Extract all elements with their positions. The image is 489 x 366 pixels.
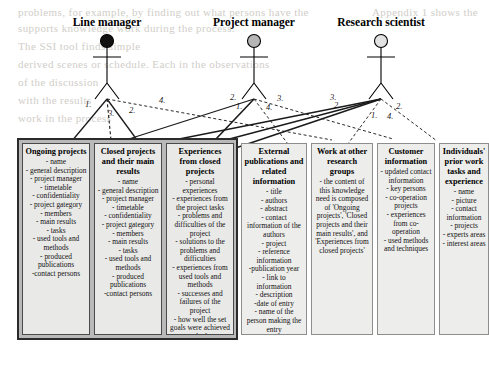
knowledge-box-item: -contact persons — [97, 290, 159, 299]
knowledge-box-item-list: - name- picture- contact information- pr… — [442, 188, 486, 248]
actor-head — [248, 35, 261, 48]
actor-label-research-scientist: Research scientist — [321, 16, 441, 28]
knowledge-box-item: - contact information — [442, 205, 486, 222]
knowledge-box-item: - experiences from the project tasks — [169, 195, 231, 212]
knowledge-box-item: - solutions to the problems and difficul… — [169, 238, 231, 264]
knowledge-box-item-list: - personal experiences- experiences from… — [169, 178, 231, 335]
knowledge-box-item-list: - updated contact information- key perso… — [380, 168, 432, 254]
knowledge-box-customer-information: Customer information- updated contact in… — [377, 143, 435, 335]
knowledge-box-title: Customer information — [380, 147, 432, 167]
connector-number: 4. — [387, 111, 393, 121]
knowledge-box-item: - updated contact information — [380, 168, 432, 185]
actor-research-scientist — [367, 35, 395, 100]
knowledge-box-title: Work at other research groups — [314, 147, 370, 177]
knowledge-box-external-publications: External publications and related inform… — [241, 143, 307, 335]
knowledge-box-item: -contact persons — [25, 270, 87, 279]
actor-project-manager — [240, 35, 268, 100]
knowledge-box-item: - produced publications — [25, 253, 87, 270]
knowledge-box-title: External publications and related inform… — [244, 147, 304, 187]
knowledge-box-title: Ongoing projects — [25, 147, 87, 157]
actor-head — [375, 35, 388, 48]
knowledge-box-item: - personal experiences — [169, 178, 231, 195]
actor-body — [93, 48, 121, 100]
actor-body — [367, 48, 395, 100]
knowledge-box-paragraph: - the content of this knowledge need is … — [314, 178, 370, 255]
knowledge-box-item: - used tools and methods — [97, 255, 159, 272]
knowledge-box-item-list: - name- general description- project man… — [97, 178, 159, 298]
knowledge-box-item: - used methods and techniques — [380, 237, 432, 254]
connector-number: 1. — [236, 101, 242, 111]
knowledge-box-title: Individuals' prior work tasks and experi… — [442, 147, 486, 187]
knowledge-box-item: - problems and difficulties of the proje… — [169, 212, 231, 238]
knowledge-box-item: - co-operation projects — [380, 194, 432, 211]
knowledge-box-item-list: - name- general description- project man… — [25, 158, 87, 278]
connector-number: 2. — [334, 100, 340, 110]
knowledge-box-item: - interest areas — [442, 240, 486, 249]
knowledge-box-closed-projects: Closed projects and their main results- … — [94, 143, 162, 335]
actor-body — [240, 48, 268, 100]
actor-label-project-manager: Project manager — [194, 16, 314, 28]
actor-label-line-manager: Line manager — [47, 16, 167, 28]
actor-line-manager — [93, 35, 121, 100]
knowledge-box-title: Closed projects and their main results — [97, 147, 159, 177]
connector-number: 4. — [159, 95, 165, 105]
connector-number: 2. — [129, 105, 135, 115]
knowledge-box-ongoing-projects: Ongoing projects- name- general descript… — [22, 143, 90, 335]
connector-number: 1. — [371, 110, 377, 120]
connector-number: 3. — [108, 108, 114, 118]
knowledge-box-item: - reference information — [244, 248, 304, 265]
knowledge-box-item: - used tools and methods — [25, 235, 87, 252]
knowledge-box-item: - contact information of the authors — [244, 214, 304, 240]
knowledge-box-item: - how well the set goals were achieved a… — [169, 316, 231, 336]
connector-number: 1. — [85, 99, 91, 109]
knowledge-box-item: - name of the person making the entry — [244, 308, 304, 334]
connector-number: 3. — [277, 93, 283, 103]
connector-lm-4 — [107, 99, 332, 140]
connector-number: 4. — [266, 102, 272, 112]
knowledge-box-individuals-prior-work: Individuals' prior work tasks and experi… — [439, 143, 489, 335]
knowledge-box-item: - successes and failures of the project — [169, 290, 231, 316]
knowledge-box-item: - produced publications — [97, 273, 159, 290]
connector-number: 2. — [396, 101, 402, 111]
actor-figures — [93, 35, 395, 100]
knowledge-box-item: - link to information — [244, 274, 304, 291]
knowledge-box-item: - experiences from co-operation — [380, 211, 432, 237]
actor-head — [101, 35, 114, 48]
knowledge-box-experiences-closed-projects: Experiences from closed projects- person… — [166, 143, 234, 335]
knowledge-box-item-list: - title- authors- abstract- contact info… — [244, 188, 304, 334]
knowledge-box-work-other-research-groups: Work at other research groups- the conte… — [311, 143, 373, 335]
knowledge-box-item: - experiences from used tools and method… — [169, 264, 231, 290]
knowledge-box-title: Experiences from closed projects — [169, 147, 231, 177]
